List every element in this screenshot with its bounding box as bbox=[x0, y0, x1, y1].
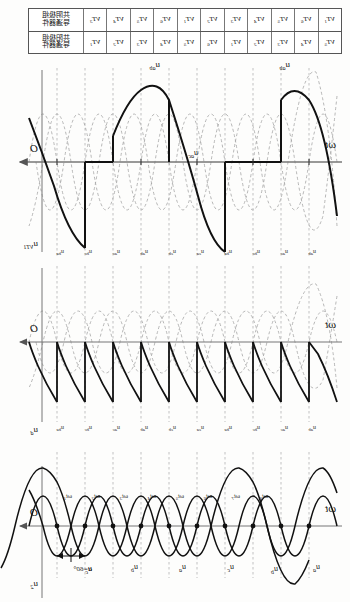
table-cell: VT3 bbox=[83, 9, 106, 31]
grid-lines bbox=[57, 266, 309, 422]
table-cell: VT4 bbox=[106, 9, 129, 31]
grid-lines bbox=[57, 452, 309, 578]
curve-label-uab-2: uab bbox=[150, 59, 161, 71]
table-cell: VT3 bbox=[271, 32, 294, 54]
table-cell: VT6 bbox=[200, 32, 223, 54]
table-row: VT5 VT4 VT3 VT2 VT1 VT6 VT5 VT4 VT3 VT2 … bbox=[29, 32, 341, 54]
table-cell: VT3 bbox=[224, 9, 247, 31]
table-cell: VT1 bbox=[318, 9, 341, 31]
alpha-dimension bbox=[57, 548, 85, 562]
phase-label-ua: ua bbox=[313, 562, 320, 573]
phase-label-ub2: ub bbox=[131, 562, 138, 573]
table-cell: VT1 bbox=[224, 32, 247, 54]
curve-label-uac: uac bbox=[188, 148, 198, 159]
phase-label-ua2: ua bbox=[179, 562, 186, 573]
origin-label: O bbox=[30, 506, 38, 518]
table-cell: VT4 bbox=[294, 32, 317, 54]
y-axis-label-u2: u2 bbox=[31, 578, 39, 590]
panel-uvt1: uab uab uac ωt O uVT1 bbox=[0, 56, 350, 268]
table-row: VT1 VT6 VT5 VT4 VT3 VT2 VT1 VT6 VT5 VT4 … bbox=[29, 9, 341, 32]
panel-ud: ωt O bbox=[0, 262, 350, 432]
table-cell: VT2 bbox=[247, 32, 270, 54]
x-axis-label-wt: ωt bbox=[325, 138, 336, 150]
ud-waveform bbox=[29, 342, 337, 402]
table-cell: VT6 bbox=[294, 9, 317, 31]
figure-canvas: VT1 VT6 VT5 VT4 VT3 VT2 VT1 VT6 VT5 VT4 … bbox=[0, 0, 350, 602]
table-cell: VT2 bbox=[200, 9, 223, 31]
phase-label-ub: ub bbox=[271, 564, 278, 575]
table-cell: VT3 bbox=[130, 32, 153, 54]
dashed-sine-family bbox=[29, 72, 337, 230]
conduction-table: VT1 VT6 VT5 VT4 VT3 VT2 VT1 VT6 VT5 VT4 … bbox=[28, 8, 342, 54]
origin-label: O bbox=[30, 142, 38, 154]
panel-ud-svg bbox=[0, 262, 350, 432]
table-cell: VT4 bbox=[153, 32, 176, 54]
table-cell: VT4 bbox=[247, 9, 270, 31]
table-cell: VT6 bbox=[153, 9, 176, 31]
panel-u2: ωt O u2 α=60° ωt1 ωt2 ωt3 ωt4 ωt5 ωt6 ωt… bbox=[0, 438, 350, 602]
table-header-cathode: 共阴极组导通器件 bbox=[29, 9, 83, 31]
dashed-sine-family bbox=[29, 284, 337, 389]
table-cell: VT2 bbox=[106, 32, 129, 54]
table-header-anode: 共阳极组导通器件 bbox=[29, 32, 83, 54]
y-axis-label-ud: ud bbox=[31, 424, 39, 436]
table-cell: VT5 bbox=[271, 9, 294, 31]
x-axis-label-wt: ωt bbox=[325, 318, 336, 330]
panel-u2-svg bbox=[0, 438, 350, 602]
phase-label-uc2: uc bbox=[85, 564, 92, 575]
table-cell: VT5 bbox=[177, 32, 200, 54]
phase-label-uc: uc bbox=[227, 562, 234, 573]
panel-uvt1-svg bbox=[0, 56, 350, 268]
table-cell: VT1 bbox=[177, 9, 200, 31]
x-axis-label-wt: ωt bbox=[325, 502, 336, 514]
table-cell: VT1 bbox=[83, 32, 106, 54]
uvt1-waveform bbox=[29, 86, 337, 252]
table-cell: VT5 bbox=[318, 32, 341, 54]
curve-label-uab-1: uab bbox=[280, 59, 291, 71]
table-cell: VT5 bbox=[130, 9, 153, 31]
origin-label: O bbox=[30, 322, 38, 334]
